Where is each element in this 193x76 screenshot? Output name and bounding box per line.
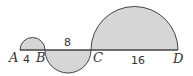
point-label-c: C [93,50,103,65]
semicircle-bc [45,50,91,73]
length-label-cd: 16 [131,54,145,67]
semicircle-diagram: A B C D 4 8 16 [0,0,193,76]
semicircle-ab [20,38,45,51]
length-label-bc: 8 [64,36,71,49]
point-label-a: A [8,50,18,65]
semicircle-cd [91,6,178,50]
point-label-d: D [172,51,184,66]
length-label-ab: 4 [23,53,30,66]
point-label-b: B [35,50,46,65]
